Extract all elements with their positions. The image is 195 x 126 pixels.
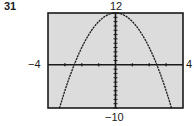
graph-window (0, 0, 195, 126)
